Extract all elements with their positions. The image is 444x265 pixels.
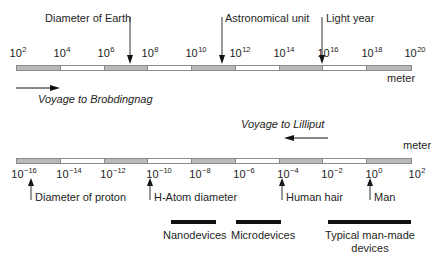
bottom-tick-label: 10−6: [233, 166, 254, 180]
bottom-tick-label: 10−2: [321, 166, 342, 180]
bottom-scale-bar: [16, 158, 412, 164]
marker-lightyear-label: Light year: [326, 12, 374, 24]
marker-proton-label: Diameter of proton: [35, 191, 126, 203]
marker-hair-label: Human hair: [286, 191, 343, 203]
bottom-tick-label: 10−8: [189, 166, 210, 180]
top-unit-label: meter: [387, 72, 415, 84]
top-tick-label: 104: [54, 45, 71, 59]
typical-devices-label-line2: devices: [351, 242, 388, 254]
microdevices-range-bar: [236, 220, 281, 224]
nanodevices-range-bar: [171, 220, 216, 224]
typical-devices-range-bar: [328, 220, 411, 224]
left-arrow-icon: [284, 134, 330, 142]
voyage-brobdingnag-label: Voyage to Brobdingnag: [38, 93, 153, 105]
marker-hatom-label: H-Atom diameter: [154, 191, 237, 203]
bottom-tick-label: 10−14: [56, 166, 81, 180]
microdevices-label: Microdevices: [231, 229, 295, 241]
right-arrow-icon: [16, 84, 62, 92]
down-arrow-icon: [217, 17, 227, 65]
top-tick-label: 1014: [273, 45, 294, 59]
top-tick-label: 1020: [404, 45, 425, 59]
voyage-lilliput-label: Voyage to Lilliput: [241, 118, 324, 130]
down-arrow-icon: [317, 17, 327, 65]
marker-au-label: Astronomical unit: [225, 12, 309, 24]
bottom-tick-label: 102: [409, 166, 426, 180]
top-tick-label: 106: [98, 45, 115, 59]
top-tick-label: 1010: [185, 45, 206, 59]
top-tick-label: 108: [142, 45, 159, 59]
bottom-unit-label: meter: [403, 139, 431, 151]
marker-earth-label: Diameter of Earth: [45, 12, 131, 24]
typical-devices-label-line1: Typical man-made: [325, 229, 415, 241]
top-tick-label: 1018: [361, 45, 382, 59]
top-tick-label: 1012: [229, 45, 250, 59]
top-tick-label: 102: [10, 45, 27, 59]
marker-man-label: Man: [374, 191, 395, 203]
nanodevices-label: Nanodevices: [163, 229, 227, 241]
down-arrow-icon: [125, 17, 135, 65]
top-scale-bar: [16, 65, 412, 71]
bottom-tick-label: 10−12: [100, 166, 125, 180]
